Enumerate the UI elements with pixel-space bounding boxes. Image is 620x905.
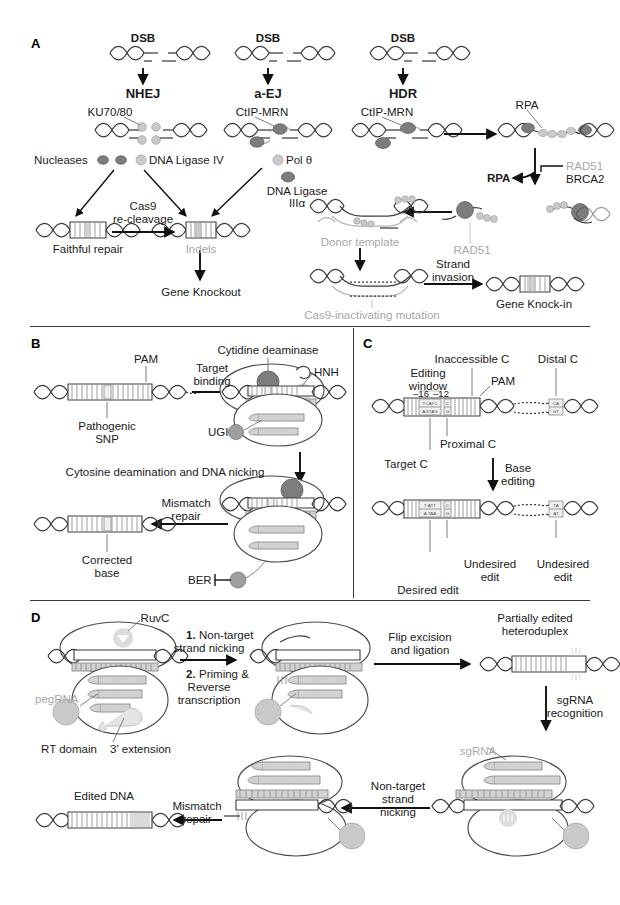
panel-letter-d: D xyxy=(31,610,40,625)
label-dsb-aej: DSB xyxy=(256,32,280,45)
label-base-editing-2: editing xyxy=(501,475,535,488)
label-pam-b: PAM xyxy=(134,353,158,366)
a-hdr-dsb-dna xyxy=(370,46,470,61)
label-rad51-top: RAD51 xyxy=(566,160,603,173)
c-sequence-text: TCATC AGTAG C G CA GT T ATT A TAA C G TA… xyxy=(422,401,559,516)
a-hdr-rpa-dna xyxy=(498,110,614,138)
label-sgrna-recog-2: recognition xyxy=(547,707,603,720)
label-brca2: BRCA2 xyxy=(566,173,604,186)
seq-before-distal-top: CA xyxy=(553,401,559,406)
label-nontarget-nicking-2: strand xyxy=(382,793,414,806)
label-corrected-2: base xyxy=(95,567,120,580)
label-aej: a-EJ xyxy=(254,87,281,100)
label-undesired-edit-1a: Undesired xyxy=(464,558,516,571)
label-deamination: Cytosine deamination and DNA nicking xyxy=(66,466,265,479)
a-rad51-filament-right xyxy=(547,202,610,223)
label-sgrna-recog-1: sgRNA xyxy=(557,694,593,707)
label-cas9-recleavage-2: re-cleavage xyxy=(113,213,173,226)
panel-letter-a: A xyxy=(31,36,40,51)
label-ctip-mrn-hdr: CtIP-MRN xyxy=(361,106,413,119)
label-step1-line1: Non-target xyxy=(199,629,253,642)
label-hnh: HNH xyxy=(314,366,339,379)
label-step2-line1: Priming & xyxy=(199,668,249,681)
label-nontarget-nicking-1: Non-target xyxy=(371,780,425,793)
a-nhej-arrow-faithful xyxy=(76,170,114,216)
seq-before-window-bottom: AGTAG xyxy=(422,409,438,414)
a-rpa-release-arrow xyxy=(513,172,535,178)
panel-letter-b: B xyxy=(31,336,40,351)
label-dna-ligase-iii-2: IIIα xyxy=(289,197,305,210)
label-flip-excision-2: and ligation xyxy=(391,644,450,657)
label-editing-window-1: Editing xyxy=(410,367,445,380)
a-dloop-structure xyxy=(310,196,428,228)
d-heteroduplex-dna xyxy=(480,648,620,680)
label-pathogenic-1: Pathogenic xyxy=(78,420,136,433)
a-rad51-filament-mid xyxy=(442,202,497,244)
seq-after-distal-top: TA xyxy=(553,503,558,508)
seq-after-window-top: T ATT xyxy=(424,503,436,508)
label-step2-num: 2. xyxy=(186,668,196,681)
a-nhej-dsb-dna xyxy=(110,46,210,61)
seq-after-proximal-bottom: G xyxy=(446,511,450,516)
a-rad51-brca2-lead xyxy=(541,166,563,172)
label-pam-c: PAM xyxy=(491,375,515,388)
label-rpa-left: RPA xyxy=(487,172,510,185)
label-pos-16: –16 xyxy=(413,388,429,399)
seq-after-distal-bottom: AT xyxy=(553,511,559,516)
b-deaminated-complex xyxy=(215,476,346,588)
label-nucleases: Nucleases xyxy=(34,154,88,167)
seq-before-proximal-top: C xyxy=(446,401,449,406)
diagram-graphics: TCATC AGTAG C G CA GT T ATT A TAA C G TA… xyxy=(0,0,620,905)
seq-before-distal-bottom: GT xyxy=(553,409,560,414)
label-pos-12: –12 xyxy=(433,388,449,399)
label-indels: Indels xyxy=(186,243,217,256)
label-pegrna: pegRNA xyxy=(35,693,78,706)
label-ugi: UGI xyxy=(208,426,228,439)
label-base-editing-1: Base xyxy=(505,462,531,475)
label-ku7080: KU70/80 xyxy=(88,106,133,119)
label-step1-num: 1. xyxy=(186,629,196,642)
label-inaccessible-c: Inaccessible C xyxy=(435,353,510,366)
seq-before-window-top: TCATC xyxy=(423,401,438,406)
label-step2-line2: Reverse xyxy=(188,681,231,694)
seq-before-proximal-bottom: G xyxy=(446,409,450,414)
d-pe-complex-3 xyxy=(224,756,365,856)
seq-after-window-bottom: A TAA xyxy=(424,511,437,516)
b-input-dna xyxy=(34,366,200,418)
label-hdr: HDR xyxy=(389,87,417,100)
d-pe-complex-1 xyxy=(48,620,188,742)
label-dna-ligase-iv: DNA Ligase IV xyxy=(149,154,224,167)
label-proximal-c: Proximal C xyxy=(440,438,496,451)
label-3-prime-extension: 3′ extension xyxy=(110,743,171,756)
divider-bc-d xyxy=(30,600,590,601)
label-target-binding-2: binding xyxy=(193,375,230,388)
label-rpa-top: RPA xyxy=(516,99,539,112)
label-flip-excision-1: Flip excision xyxy=(388,631,451,644)
label-heteroduplex-2: heteroduplex xyxy=(502,625,569,638)
d-pe-complex-4 xyxy=(432,748,594,856)
label-ruvc: RuvC xyxy=(141,612,170,625)
label-ber: BER xyxy=(188,574,212,587)
a-nhej-complex-dna xyxy=(95,117,207,144)
label-target-binding-1: Target xyxy=(196,362,228,375)
label-donor-template: Donor template xyxy=(321,236,400,249)
figure-canvas: TCATC AGTAG C G CA GT T ATT A TAA C G TA… xyxy=(0,0,620,905)
b-corrected-dna xyxy=(34,516,176,552)
label-desired-edit: Desired edit xyxy=(397,584,458,597)
label-undesired-edit-2b: edit xyxy=(554,571,573,584)
a-knockin-dna xyxy=(486,276,584,292)
label-nhej: NHEJ xyxy=(126,87,161,100)
label-gene-knockout: Gene Knockout xyxy=(161,286,240,299)
label-mismatch-repair-b2: repair xyxy=(171,510,200,523)
d-pe-complex-2 xyxy=(250,622,370,734)
label-mismatch-repair-b1: Mismatch xyxy=(161,497,210,510)
label-cytidine-deaminase: Cytidine deaminase xyxy=(217,344,318,357)
label-undesired-edit-1b: edit xyxy=(481,571,500,584)
d-edited-dna xyxy=(36,812,186,828)
label-sgrna: sgRNA xyxy=(460,745,496,758)
label-mismatch-repair-d2: repair xyxy=(182,813,211,826)
label-rad51-bottom: RAD51 xyxy=(453,244,490,257)
label-ctip-mrn-aej: CtIP-MRN xyxy=(236,106,288,119)
label-gene-knock-in: Gene Knock-in xyxy=(496,298,572,311)
seq-after-proximal-top: C xyxy=(446,503,449,508)
